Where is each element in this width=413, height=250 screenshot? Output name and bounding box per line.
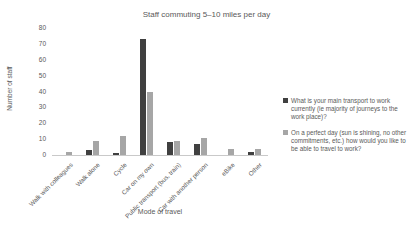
y-axis-ticks: 01020304050607080 — [30, 28, 46, 155]
bar-perfect-day — [66, 152, 72, 155]
legend-label: On a perfect day (sun is shining, no oth… — [291, 129, 410, 154]
legend-swatch-icon — [283, 130, 288, 135]
y-tick-label: 80 — [39, 24, 46, 32]
bar-current-transport — [248, 152, 254, 155]
y-tick-label: 20 — [39, 119, 46, 127]
bar-chart: Staff commuting 5–10 miles per day Numbe… — [0, 0, 413, 250]
bar-group — [241, 28, 268, 155]
bar-current-transport — [86, 150, 92, 155]
bar-perfect-day — [201, 138, 207, 155]
legend-swatch-icon — [283, 98, 288, 103]
y-tick-label: 40 — [39, 88, 46, 96]
bar-group — [79, 28, 106, 155]
bar-group — [160, 28, 187, 155]
bar-perfect-day — [255, 149, 261, 155]
bar-perfect-day — [174, 141, 180, 155]
y-tick-label: 60 — [39, 56, 46, 64]
chart-title: Staff commuting 5–10 miles per day — [0, 10, 413, 19]
y-tick-label: 50 — [39, 72, 46, 80]
plot-area — [52, 28, 268, 156]
bar-group — [52, 28, 79, 155]
y-axis-title: Number of staff — [6, 54, 13, 124]
x-axis-title: Mode of travel — [52, 208, 268, 215]
legend-label: What is your main transport to work curr… — [291, 97, 410, 122]
bar-perfect-day — [120, 136, 126, 155]
legend-item: On a perfect day (sun is shining, no oth… — [283, 129, 410, 154]
bar-perfect-day — [228, 149, 234, 155]
bar-current-transport — [140, 39, 146, 155]
bar-current-transport — [167, 142, 173, 155]
y-tick-label: 10 — [39, 135, 46, 143]
bar-group — [133, 28, 160, 155]
y-tick-label: 30 — [39, 103, 46, 111]
bar-group — [106, 28, 133, 155]
legend: What is your main transport to work curr… — [283, 97, 410, 153]
legend-item: What is your main transport to work curr… — [283, 97, 410, 122]
y-tick-label: 0 — [42, 151, 46, 159]
bar-group — [187, 28, 214, 155]
bar-current-transport — [113, 153, 119, 155]
bar-perfect-day — [93, 141, 99, 155]
bar-perfect-day — [147, 92, 153, 156]
bar-group — [214, 28, 241, 155]
y-tick-label: 70 — [39, 40, 46, 48]
bar-current-transport — [194, 144, 200, 155]
x-axis-labels: Walk with colleaguesWalk aloneCycleCar o… — [52, 159, 268, 229]
